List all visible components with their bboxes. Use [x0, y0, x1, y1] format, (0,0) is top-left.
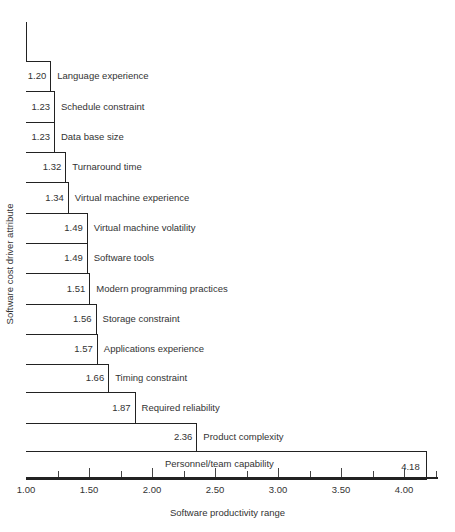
bar-category-label: Applications experience	[104, 343, 204, 354]
bar-value-label: 1.34	[45, 192, 64, 203]
x-tick-label: 3.00	[269, 484, 288, 495]
bar-value-label: 1.20	[28, 70, 47, 81]
productivity-range-chart: Software cost driver attribute 1.20Langu…	[0, 0, 455, 532]
bar-value-label: 2.36	[174, 431, 193, 442]
bar-category-label: Virtual machine volatility	[94, 222, 196, 233]
bar-product-complexity	[26, 423, 197, 453]
bar-value-label: 1.87	[112, 402, 131, 413]
bar-value-label: 1.23	[31, 101, 50, 112]
bar-value-label: 1.32	[43, 161, 62, 172]
x-tick-label: 2.00	[143, 484, 162, 495]
bar-category-label: Storage constraint	[103, 313, 180, 324]
bar-category-label: Turnaround time	[72, 161, 141, 172]
bar-category-label: Data base size	[61, 131, 124, 142]
bar-category-label: Virtual machine experience	[75, 192, 189, 203]
bar-category-label: Timing constraint	[115, 372, 187, 383]
x-tick	[341, 468, 342, 477]
bar-value-label: 1.49	[64, 252, 83, 263]
x-tick	[310, 471, 311, 477]
y-axis-title: Software cost driver attribute	[4, 204, 15, 325]
bar-category-label: Product complexity	[203, 431, 283, 442]
x-axis-title: Software productivity range	[0, 507, 455, 518]
x-tick	[152, 468, 153, 477]
x-tick	[215, 468, 216, 477]
bar-value-label: 1.51	[67, 283, 86, 294]
bar-category-label: Personnel/team capability	[165, 458, 274, 469]
x-tick	[58, 471, 59, 477]
bar-value-label: 1.49	[64, 222, 83, 233]
bar-category-label: Modern programming practices	[96, 283, 227, 294]
x-tick	[278, 468, 279, 477]
x-tick	[247, 471, 248, 477]
x-tick-label: 3.50	[332, 484, 351, 495]
x-tick-label: 1.00	[17, 484, 36, 495]
bar-value-label: 1.23	[31, 131, 50, 142]
x-tick-label: 1.50	[80, 484, 99, 495]
bar-value-label: 1.57	[74, 343, 93, 354]
x-tick-label: 4.00	[395, 484, 414, 495]
x-tick	[184, 471, 185, 477]
x-tick	[373, 471, 374, 477]
x-tick-label: 2.50	[206, 484, 225, 495]
x-tick	[404, 468, 405, 477]
x-tick	[89, 468, 90, 477]
x-tick	[121, 471, 122, 477]
bar-value-label: 1.56	[73, 313, 92, 324]
x-axis-line	[26, 477, 438, 479]
bar-category-label: Required reliability	[142, 402, 220, 413]
bar-category-label: Schedule constraint	[61, 101, 144, 112]
bar-value-label: 1.66	[86, 372, 105, 383]
bar-category-label: Language experience	[57, 70, 148, 81]
x-tick	[436, 471, 437, 477]
bar-category-label: Software tools	[94, 252, 154, 263]
